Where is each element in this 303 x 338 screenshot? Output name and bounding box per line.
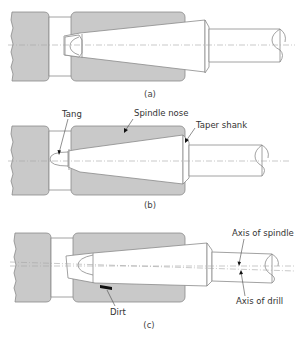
caption-c: (c) — [143, 320, 154, 330]
taper-shank-diagram: (a) Tang Spindle nose Taper shank (b) — [0, 0, 303, 338]
caption-a: (a) — [144, 89, 156, 99]
panel-c: Dirt Axis of spindle Axis of drill (c) — [10, 228, 295, 330]
label-taper-shank: Taper shank — [195, 120, 247, 130]
tang — [65, 35, 82, 57]
label-axis-of-spindle: Axis of spindle — [232, 228, 294, 238]
label-dirt: Dirt — [110, 307, 126, 317]
caption-b: (b) — [144, 200, 156, 210]
drill-body — [209, 29, 280, 62]
label-spindle-nose: Spindle nose — [134, 108, 188, 118]
machine-body — [11, 12, 49, 81]
machine-body — [11, 126, 49, 195]
panel-b: Tang Spindle nose Taper shank (b) — [8, 108, 290, 210]
drill-body — [189, 145, 262, 176]
label-axis-of-drill: Axis of drill — [236, 296, 283, 306]
label-tang: Tang — [61, 109, 82, 119]
machine-body — [14, 233, 51, 302]
leader-taper-shank — [186, 128, 195, 141]
panel-a: (a) — [8, 12, 295, 99]
